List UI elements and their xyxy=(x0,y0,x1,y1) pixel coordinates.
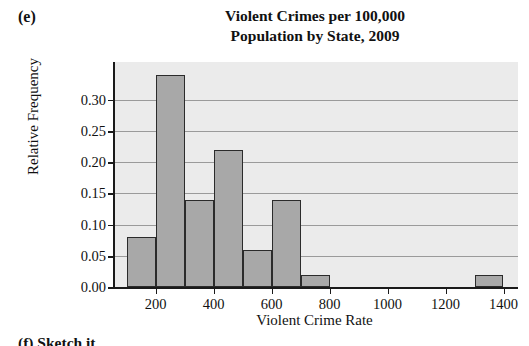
y-tick-label: 0.20 xyxy=(81,154,106,171)
x-tick-mark xyxy=(214,287,216,294)
x-tick-label: 800 xyxy=(319,296,341,313)
x-tick-label: 400 xyxy=(203,296,225,313)
histogram-bar xyxy=(272,200,301,288)
next-panel-caption: (f) Sketch it xyxy=(18,334,96,346)
histogram-bar xyxy=(214,150,243,288)
x-tick-label: 200 xyxy=(145,296,167,313)
histogram-bar xyxy=(185,200,214,288)
x-tick-label: 600 xyxy=(261,296,283,313)
plot-inner: 0.000.050.100.150.200.250.30200400600800… xyxy=(115,62,518,287)
histogram-bar xyxy=(127,237,156,287)
y-tick-mark xyxy=(108,256,115,258)
y-tick-label: 0.10 xyxy=(81,216,106,233)
y-tick-mark xyxy=(108,131,115,133)
x-tick-mark xyxy=(388,287,390,294)
x-tick-label: 1400 xyxy=(489,296,518,313)
y-tick-mark xyxy=(108,225,115,227)
y-tick-label: 0.30 xyxy=(81,91,106,108)
x-tick-mark xyxy=(504,287,506,294)
x-tick-mark xyxy=(446,287,448,294)
x-tick-mark xyxy=(330,287,332,294)
x-tick-mark xyxy=(156,287,158,294)
plot-area: 0.000.050.100.150.200.250.30200400600800… xyxy=(113,62,518,289)
x-tick-label: 1200 xyxy=(431,296,460,313)
histogram-bar xyxy=(301,275,330,288)
x-axis-title: Violent Crime Rate xyxy=(113,312,516,329)
y-tick-label: 0.15 xyxy=(81,185,106,202)
y-tick-mark xyxy=(108,193,115,195)
y-tick-mark xyxy=(108,287,115,289)
chart-title-line-2: Population by State, 2009 xyxy=(120,26,510,46)
chart-title: Violent Crimes per 100,000 Population by… xyxy=(120,6,510,46)
y-tick-mark xyxy=(108,100,115,102)
y-tick-label: 0.00 xyxy=(81,279,106,296)
x-tick-label: 1000 xyxy=(373,296,402,313)
y-tick-label: 0.25 xyxy=(81,122,106,139)
histogram-bar xyxy=(243,250,272,288)
figure-panel-e: (e) Violent Crimes per 100,000 Populatio… xyxy=(0,0,529,346)
y-tick-mark xyxy=(108,162,115,164)
y-tick-label: 0.05 xyxy=(81,247,106,264)
chart-title-line-1: Violent Crimes per 100,000 xyxy=(120,6,510,26)
histogram-bar xyxy=(156,75,185,288)
histogram-bar xyxy=(475,275,504,288)
y-axis-title: Relative Frequency xyxy=(25,22,42,212)
x-tick-mark xyxy=(272,287,274,294)
